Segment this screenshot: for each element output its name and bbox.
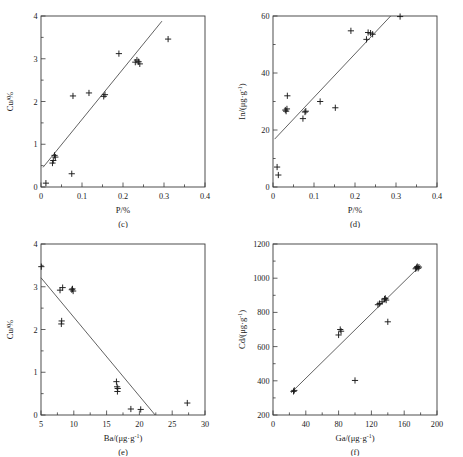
plot-frame-c [41, 16, 205, 187]
y-axis-title-f: Cd/(μg·g-1) [237, 310, 247, 349]
data-point-f-0 [290, 388, 296, 394]
chart-panel-c: 00.10.20.30.401234P/%Cu/%(c) [0, 0, 231, 228]
y-tick-label-c-0: 0 [33, 183, 37, 192]
y-tick-label-c-4: 4 [33, 12, 37, 21]
chart-svg-f: 0408012016020020040060080010001200Ga/(μg… [232, 228, 463, 456]
y-tick-label-c-2: 2 [33, 98, 37, 107]
data-point-d-10 [332, 105, 338, 111]
y-axis-title-d: In/(μg·g-1) [237, 83, 247, 119]
y-tick-label-f-4: 1000 [253, 274, 269, 283]
data-point-e-11 [114, 388, 120, 394]
plot-area-f: 0408012016020020040060080010001200Ga/(μg… [237, 240, 443, 456]
x-tick-label-d-0: 0 [271, 192, 275, 201]
x-tick-label-f-5: 200 [431, 420, 443, 429]
panel-label-d: (d) [350, 219, 360, 228]
chart-panel-f: 0408012016020020040060080010001200Ga/(μg… [232, 228, 463, 456]
data-point-e-14 [184, 400, 190, 406]
y-tick-label-e-2: 2 [33, 326, 37, 335]
chart-panel-d: 00.10.20.30.40204060P/%In/(μg·g-1)(d) [232, 0, 463, 228]
x-tick-label-f-4: 160 [398, 420, 410, 429]
data-point-d-11 [348, 28, 354, 34]
data-point-d-12 [363, 36, 369, 42]
x-tick-label-e-1: 10 [70, 420, 78, 429]
x-tick-label-e-5: 30 [201, 420, 209, 429]
regression-line-e [41, 278, 155, 415]
y-tick-label-d-3: 60 [261, 12, 269, 21]
x-axis-title-f: Ga/(μg·g-1) [335, 433, 374, 443]
data-point-e-3 [59, 318, 65, 324]
x-tick-label-d-4: 0.4 [432, 192, 442, 201]
chart-svg-e: 5101520253001234Ba/(μg·g-1)Cu/%(e) [0, 228, 231, 456]
plot-area-d: 00.10.20.30.40204060P/%In/(μg·g-1)(d) [237, 12, 442, 228]
y-tick-label-f-3: 800 [257, 308, 269, 317]
x-tick-label-d-1: 0.1 [309, 192, 319, 201]
x-tick-label-c-2: 0.2 [118, 192, 128, 201]
data-point-e-13 [138, 406, 144, 412]
x-tick-label-d-3: 0.3 [391, 192, 401, 201]
figure-container: 00.10.20.30.401234P/%Cu/%(c) 00.10.20.30… [0, 0, 463, 457]
data-point-c-0 [43, 180, 49, 186]
x-tick-label-e-3: 20 [135, 420, 143, 429]
data-point-f-1 [291, 387, 297, 393]
x-tick-label-f-2: 80 [335, 420, 343, 429]
data-point-d-6 [300, 116, 306, 122]
data-point-c-7 [86, 90, 92, 96]
chart-svg-d: 00.10.20.30.40204060P/%In/(μg·g-1)(d) [232, 0, 463, 228]
x-tick-label-c-0: 0 [39, 192, 43, 201]
y-tick-label-c-1: 1 [33, 140, 37, 149]
plot-frame-e [41, 244, 205, 415]
data-point-d-8 [303, 108, 309, 114]
data-point-f-12 [385, 319, 391, 325]
chart-svg-c: 00.10.20.30.401234P/%Cu/%(c) [0, 0, 231, 228]
data-point-c-10 [116, 51, 122, 57]
data-point-d-7 [302, 109, 308, 115]
data-point-d-1 [275, 172, 281, 178]
x-tick-label-c-3: 0.3 [159, 192, 169, 201]
panel-label-f: (f) [351, 447, 360, 456]
regression-line-f [291, 265, 421, 392]
y-tick-label-f-2: 600 [257, 343, 269, 352]
plot-area-e: 5101520253001234Ba/(μg·g-1)Cu/%(e) [5, 240, 209, 456]
data-point-c-5 [69, 171, 75, 177]
y-tick-label-f-0: 200 [257, 411, 269, 420]
x-tick-label-e-0: 5 [39, 420, 43, 429]
x-axis-title-e: Ba/(μg·g-1) [104, 433, 143, 443]
y-tick-label-c-3: 3 [33, 55, 37, 64]
plot-area-c: 00.10.20.30.401234P/%Cu/%(c) [5, 12, 210, 228]
x-tick-label-e-4: 25 [168, 420, 176, 429]
x-tick-label-c-4: 0.4 [200, 192, 210, 201]
y-tick-label-d-1: 20 [261, 126, 269, 135]
data-point-c-6 [70, 93, 76, 99]
x-tick-label-c-1: 0.1 [77, 192, 87, 201]
panel-label-c: (c) [118, 219, 128, 228]
x-axis-title-c: P/% [116, 205, 130, 215]
x-tick-label-f-0: 0 [271, 420, 275, 429]
data-point-d-2 [282, 107, 288, 113]
x-tick-label-f-3: 120 [365, 420, 377, 429]
data-point-d-9 [317, 98, 323, 104]
chart-panel-e: 5101520253001234Ba/(μg·g-1)Cu/%(e) [0, 228, 231, 456]
y-axis-title-e: Cu/% [5, 320, 15, 340]
y-tick-label-d-0: 0 [265, 183, 269, 192]
panel-label-e: (e) [118, 447, 128, 456]
y-tick-label-e-3: 3 [33, 283, 37, 292]
y-tick-label-f-5: 1200 [253, 240, 269, 249]
data-point-f-6 [375, 302, 381, 308]
data-point-e-0 [38, 264, 44, 270]
data-point-d-0 [274, 164, 280, 170]
y-tick-label-e-1: 1 [33, 368, 37, 377]
x-axis-title-d: P/% [348, 205, 362, 215]
x-tick-label-d-2: 0.2 [350, 192, 360, 201]
y-tick-label-d-2: 40 [261, 69, 269, 78]
y-tick-label-e-0: 0 [33, 411, 37, 420]
data-point-f-5 [352, 377, 358, 383]
y-tick-label-e-4: 4 [33, 240, 37, 249]
x-tick-label-e-2: 15 [103, 420, 111, 429]
data-point-e-8 [113, 379, 119, 385]
x-tick-label-f-1: 40 [302, 420, 310, 429]
data-point-e-5 [69, 287, 75, 293]
y-axis-title-c: Cu/% [5, 92, 15, 112]
y-tick-label-f-1: 400 [257, 377, 269, 386]
data-point-d-16 [397, 13, 403, 19]
data-point-d-5 [284, 93, 290, 99]
